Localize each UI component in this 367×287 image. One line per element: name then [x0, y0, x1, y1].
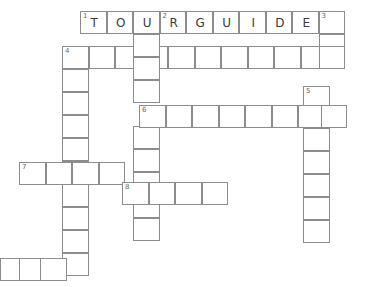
cell-letter: T [81, 12, 106, 33]
cell-r4c8[interactable] [248, 46, 275, 69]
clue-number: 4 [65, 47, 69, 55]
clue-number: 7 [22, 163, 26, 171]
cell-letter: D [267, 12, 292, 33]
cell-letter: R [161, 12, 186, 33]
cell-r8c4[interactable] [202, 182, 229, 205]
cell-r6c6[interactable] [272, 105, 299, 128]
cell-r4c7[interactable] [221, 46, 248, 69]
cell-4d-8[interactable] [62, 207, 89, 230]
cell-4d-7[interactable] [62, 184, 89, 207]
cell-2d-4[interactable] [133, 80, 160, 103]
cell-r1c6[interactable]: U [213, 11, 240, 34]
cell-bot-3[interactable] [40, 258, 67, 281]
cell-letter: G [187, 12, 212, 33]
cell-5d-3[interactable] [303, 128, 330, 151]
cell-4d-5[interactable] [62, 138, 89, 161]
cell-r7c2[interactable] [46, 162, 73, 185]
clue-number: 3 [322, 12, 326, 20]
cell-r6c2[interactable] [166, 105, 193, 128]
cell-r6c8[interactable] [321, 105, 348, 128]
cell-r4c2[interactable] [89, 46, 116, 69]
cell-5d-7[interactable] [303, 220, 330, 243]
cell-r6c1[interactable]: 6 [139, 105, 166, 128]
cell-r1c7[interactable]: I [239, 11, 266, 34]
cell-2d-6[interactable] [133, 126, 160, 149]
cell-r4c1[interactable]: 4 [62, 46, 89, 69]
cell-r4c11[interactable] [319, 46, 346, 69]
cell-5d-4[interactable] [303, 151, 330, 174]
cell-2d-2[interactable] [133, 34, 160, 57]
cell-r4c6[interactable] [195, 46, 222, 69]
cell-2d-10[interactable] [133, 218, 160, 241]
cell-4d-9[interactable] [62, 230, 89, 253]
cell-r1c9[interactable]: E [292, 11, 319, 34]
cell-r7c1[interactable]: 7 [19, 162, 46, 185]
cell-r1c4[interactable]: 2R [160, 11, 187, 34]
cell-r1c2[interactable]: O [107, 11, 134, 34]
cell-r8c2[interactable] [149, 182, 176, 205]
cell-r6c5[interactable] [245, 105, 272, 128]
cell-letter: O [108, 12, 133, 33]
cell-r8c3[interactable] [175, 182, 202, 205]
clue-number: 5 [306, 87, 310, 95]
cell-r4c9[interactable] [274, 46, 301, 69]
cell-r1c1[interactable]: 1T [80, 11, 107, 34]
cell-r6c3[interactable] [192, 105, 219, 128]
crossword-puzzle: 1TOU2RGUIDE345678 [0, 0, 367, 287]
cell-letter: U [214, 12, 239, 33]
cell-letter: I [240, 12, 265, 33]
cell-r4c5[interactable] [168, 46, 195, 69]
cell-r8c1[interactable]: 8 [122, 182, 149, 205]
cell-letter: U [134, 12, 159, 33]
cell-r1c5[interactable]: G [186, 11, 213, 34]
cell-r1c3[interactable]: U [133, 11, 160, 34]
clue-number: 8 [125, 183, 129, 191]
cell-2d-3[interactable] [133, 57, 160, 80]
cell-4d-3[interactable] [62, 92, 89, 115]
cell-r7c3[interactable] [72, 162, 99, 185]
cell-5d-5[interactable] [303, 174, 330, 197]
clue-number: 6 [142, 106, 146, 114]
cell-5d-6[interactable] [303, 197, 330, 220]
cell-2d-7[interactable] [133, 149, 160, 172]
cell-r1c8[interactable]: D [266, 11, 293, 34]
cell-3d-1[interactable]: 3 [319, 11, 346, 34]
cell-4d-2[interactable] [62, 69, 89, 92]
cell-4d-4[interactable] [62, 115, 89, 138]
cell-letter: E [293, 12, 318, 33]
cell-r6c4[interactable] [219, 105, 246, 128]
